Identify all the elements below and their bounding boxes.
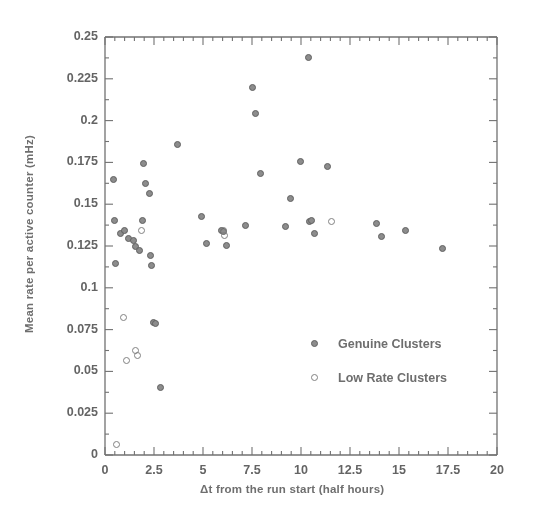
scatter-plot-figure: 00.0250.050.0750.10.1250.150.1750.20.225… [0, 0, 544, 522]
data-point-genuine [198, 213, 205, 220]
data-point-genuine [139, 217, 146, 224]
data-point-genuine [121, 227, 128, 234]
y-tick-label: 0 [20, 447, 98, 461]
data-point-genuine [146, 190, 153, 197]
data-point-genuine [439, 245, 446, 252]
y-tick-label: 0.2 [20, 113, 98, 127]
legend-label: Genuine Clusters [338, 337, 442, 351]
data-point-genuine [148, 262, 155, 269]
data-point-genuine [402, 227, 409, 234]
data-point-low-rate [134, 352, 141, 359]
data-point-genuine [252, 110, 259, 117]
data-point-low-rate [138, 227, 145, 234]
data-point-genuine [140, 160, 147, 167]
y-tick-label: 0.025 [20, 405, 98, 419]
data-point-genuine [136, 247, 143, 254]
data-point-genuine [242, 222, 249, 229]
data-point-genuine [111, 217, 118, 224]
y-tick-label: 0.25 [20, 29, 98, 43]
data-point-low-rate [120, 314, 127, 321]
data-point-low-rate [113, 441, 120, 448]
x-tick-label: 20 [467, 463, 527, 477]
plot-frame [105, 37, 497, 455]
data-point-genuine [297, 158, 304, 165]
data-point-genuine [142, 180, 149, 187]
data-point-genuine [147, 252, 154, 259]
y-tick-label: 0.225 [20, 71, 98, 85]
legend-marker-genuine [311, 340, 318, 347]
data-point-genuine [223, 242, 230, 249]
x-axis-ticks [105, 37, 497, 455]
y-axis-ticks [105, 37, 497, 455]
data-point-genuine [373, 220, 380, 227]
x-axis-label: Δt from the run start (half hours) [200, 483, 500, 495]
data-point-genuine [308, 217, 315, 224]
legend-marker-low-rate [311, 374, 318, 381]
y-axis-label: Mean rate per active counter (mHz) [23, 134, 35, 334]
y-tick-label: 0.05 [20, 363, 98, 377]
data-point-genuine [287, 195, 294, 202]
legend-label: Low Rate Clusters [338, 371, 447, 385]
data-point-low-rate [221, 232, 228, 239]
data-point-genuine [324, 163, 331, 170]
